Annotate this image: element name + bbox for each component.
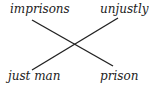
line-imprisons-to-prison [32,20,113,66]
cross-lines [0,0,149,87]
